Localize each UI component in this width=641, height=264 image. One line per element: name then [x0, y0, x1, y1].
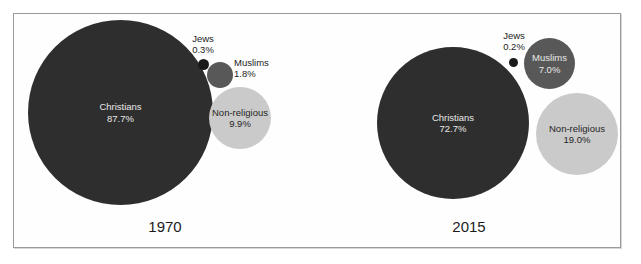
bubble-label-value: 9.9%: [229, 118, 251, 129]
bubble-label-value: 87.7%: [107, 113, 134, 124]
bubble-2015-non-religious[interactable]: Non-religious 19.0%: [536, 93, 618, 175]
year-label: 2015: [452, 218, 485, 235]
callout-1970-jews: Jews 0.3%: [176, 33, 230, 55]
year-label: 1970: [148, 218, 181, 235]
bubble-2015-jews[interactable]: [509, 58, 518, 67]
bubble-1970-muslims[interactable]: [207, 62, 233, 88]
bubble-label-name: Christians: [99, 101, 141, 112]
callout-label-value: 1.8%: [234, 68, 269, 79]
callout-1970-muslims: Muslims 1.8%: [234, 57, 269, 79]
bubble-label-value: 72.7%: [440, 123, 467, 134]
callout-label-value: 0.2%: [487, 41, 541, 52]
bubble-chart-figure: Christians 87.7% Non-religious 9.9% Musl…: [0, 0, 641, 264]
bubble-label-name: Non-religious: [212, 107, 268, 118]
callout-label-name: Muslims: [234, 57, 269, 68]
panel-year-1970: 1970: [13, 218, 317, 235]
bubble-label-value: 7.0%: [539, 64, 561, 75]
panel-1970: Christians 87.7% Non-religious 9.9% Musl…: [13, 0, 317, 264]
callout-label-name: Jews: [487, 30, 541, 41]
bubble-1970-jews[interactable]: [198, 59, 209, 70]
panel-year-2015: 2015: [317, 218, 621, 235]
bubble-label-name: Muslims: [532, 52, 567, 63]
bubble-1970-non-religious[interactable]: Non-religious 9.9%: [209, 87, 271, 149]
bubble-2015-christians[interactable]: Christians 72.7%: [377, 47, 529, 199]
callout-label-value: 0.3%: [176, 44, 230, 55]
bubble-label-value: 19.0%: [564, 134, 591, 145]
bubble-label-name: Christians: [432, 112, 474, 123]
callout-2015-jews: Jews 0.2%: [487, 30, 541, 52]
callout-label-name: Jews: [176, 33, 230, 44]
bubble-label-name: Non-religious: [549, 123, 605, 134]
panel-2015: Christians 72.7% Non-religious 19.0% Mus…: [317, 0, 621, 264]
